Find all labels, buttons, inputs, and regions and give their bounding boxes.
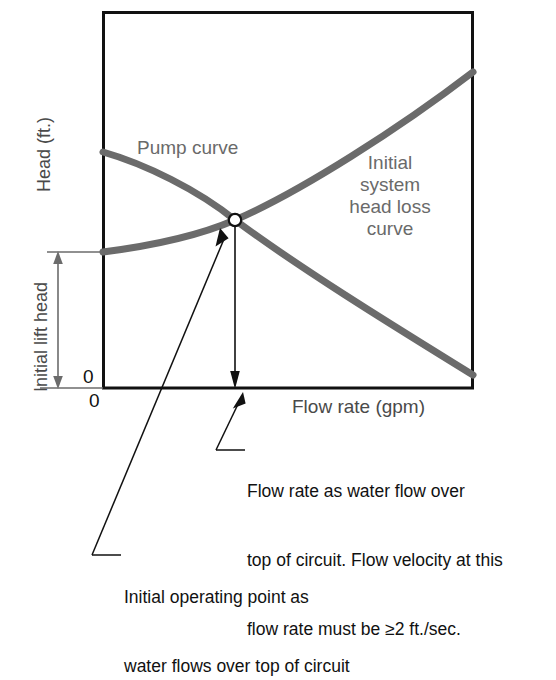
- operating-point-drop-arrow: [230, 371, 240, 389]
- lift-head-bracket-label: Initial lift head: [31, 282, 52, 392]
- flow-rate-callout-line-1: Flow rate as water flow over: [247, 480, 503, 503]
- operating-point-callout-line-1: Initial operating point as: [124, 586, 350, 609]
- operating-point-callout: Initial operating point as water flows o…: [124, 540, 350, 680]
- y-axis-label: Head (ft.): [34, 117, 55, 192]
- flow-rate-leader-arrow: [233, 392, 246, 408]
- operating-point-callout-line-2: water flows over top of circuit: [124, 655, 350, 678]
- system-curve-label: Initial system head loss curve: [330, 152, 450, 240]
- lift-head-arrow-head-down: [53, 376, 63, 389]
- y-axis-zero-tick: 0: [83, 366, 94, 388]
- lift-head-arrow-head-up: [53, 251, 63, 264]
- pump-curve-label: Pump curve: [137, 137, 238, 159]
- x-axis-label: Flow rate (gpm): [292, 396, 425, 418]
- operating-point-marker[interactable]: [229, 214, 241, 226]
- operating-point-leader-line: [92, 239, 224, 555]
- x-axis-zero-tick: 0: [89, 390, 100, 412]
- system-curve-label-text: Initial system head loss curve: [349, 152, 430, 239]
- flow-rate-leader-line: [216, 400, 240, 450]
